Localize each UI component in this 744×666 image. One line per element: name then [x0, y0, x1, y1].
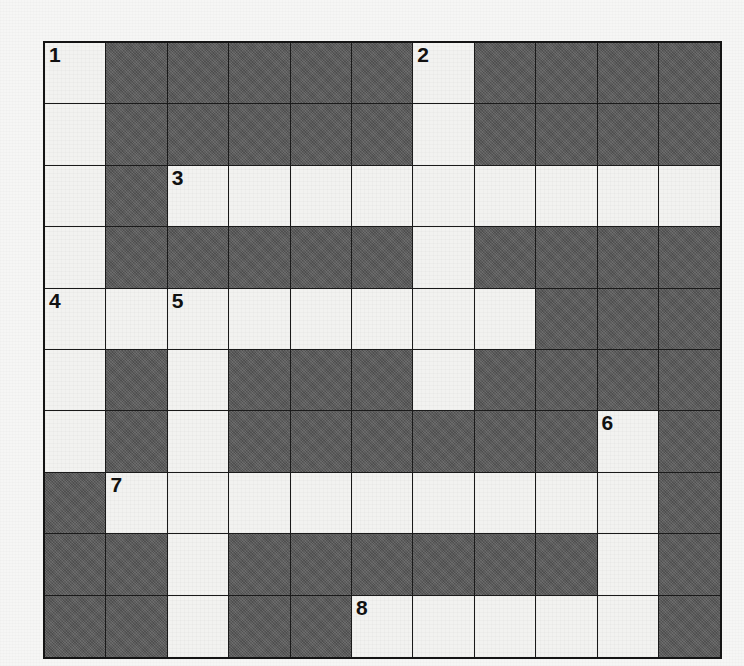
- grid-block-cell-6-10: [659, 411, 720, 472]
- grid-block-cell-3-7: [475, 227, 536, 288]
- grid-block-cell-3-2: [168, 227, 229, 288]
- grid-block-cell-6-4: [291, 411, 352, 472]
- grid-block-cell-6-5: [352, 411, 413, 472]
- grid-open-cell-7-1[interactable]: 7: [106, 473, 167, 534]
- grid-block-cell-0-8: [536, 43, 597, 104]
- grid-block-cell-8-7: [475, 534, 536, 595]
- grid-open-cell-4-1[interactable]: [106, 289, 167, 350]
- grid-block-cell-0-5: [352, 43, 413, 104]
- grid-open-cell-7-5[interactable]: [352, 473, 413, 534]
- grid-block-cell-6-7: [475, 411, 536, 472]
- crossword-grid[interactable]: 12345678: [43, 41, 722, 659]
- grid-open-cell-1-6[interactable]: [413, 104, 474, 165]
- clue-number-7: 7: [110, 473, 121, 497]
- grid-block-cell-7-10: [659, 473, 720, 534]
- grid-open-cell-7-2[interactable]: [168, 473, 229, 534]
- grid-open-cell-7-6[interactable]: [413, 473, 474, 534]
- grid-open-cell-3-6[interactable]: [413, 227, 474, 288]
- grid-block-cell-3-5: [352, 227, 413, 288]
- grid-open-cell-2-5[interactable]: [352, 166, 413, 227]
- grid-block-cell-1-8: [536, 104, 597, 165]
- grid-block-cell-0-9: [598, 43, 659, 104]
- grid-block-cell-5-8: [536, 350, 597, 411]
- grid-open-cell-9-2[interactable]: [168, 596, 229, 657]
- grid-block-cell-5-7: [475, 350, 536, 411]
- grid-open-cell-2-10[interactable]: [659, 166, 720, 227]
- grid-open-cell-6-9[interactable]: 6: [598, 411, 659, 472]
- grid-block-cell-8-10: [659, 534, 720, 595]
- grid-open-cell-7-7[interactable]: [475, 473, 536, 534]
- grid-open-cell-9-5[interactable]: 8: [352, 596, 413, 657]
- grid-block-cell-0-2: [168, 43, 229, 104]
- clue-number-6: 6: [602, 411, 613, 435]
- grid-block-cell-8-0: [45, 534, 106, 595]
- grid-block-cell-8-6: [413, 534, 474, 595]
- grid-block-cell-0-3: [229, 43, 290, 104]
- grid-open-cell-8-9[interactable]: [598, 534, 659, 595]
- grid-block-cell-5-4: [291, 350, 352, 411]
- grid-open-cell-8-2[interactable]: [168, 534, 229, 595]
- grid-block-cell-8-4: [291, 534, 352, 595]
- grid-block-cell-1-1: [106, 104, 167, 165]
- grid-block-cell-3-4: [291, 227, 352, 288]
- grid-block-cell-5-1: [106, 350, 167, 411]
- grid-open-cell-1-0[interactable]: [45, 104, 106, 165]
- grid-open-cell-7-9[interactable]: [598, 473, 659, 534]
- grid-open-cell-5-0[interactable]: [45, 350, 106, 411]
- grid-block-cell-3-8: [536, 227, 597, 288]
- grid-open-cell-2-7[interactable]: [475, 166, 536, 227]
- grid-open-cell-4-3[interactable]: [229, 289, 290, 350]
- grid-block-cell-3-3: [229, 227, 290, 288]
- grid-block-cell-9-10: [659, 596, 720, 657]
- grid-block-cell-1-3: [229, 104, 290, 165]
- grid-open-cell-2-3[interactable]: [229, 166, 290, 227]
- grid-open-cell-9-8[interactable]: [536, 596, 597, 657]
- grid-block-cell-7-0: [45, 473, 106, 534]
- grid-block-cell-5-3: [229, 350, 290, 411]
- grid-open-cell-7-3[interactable]: [229, 473, 290, 534]
- grid-block-cell-3-1: [106, 227, 167, 288]
- grid-open-cell-5-6[interactable]: [413, 350, 474, 411]
- grid-open-cell-4-2[interactable]: 5: [168, 289, 229, 350]
- grid-open-cell-2-9[interactable]: [598, 166, 659, 227]
- grid-open-cell-4-7[interactable]: [475, 289, 536, 350]
- grid-open-cell-2-6[interactable]: [413, 166, 474, 227]
- grid-block-cell-0-10: [659, 43, 720, 104]
- grid-open-cell-4-0[interactable]: 4: [45, 289, 106, 350]
- clue-number-5: 5: [172, 289, 183, 313]
- grid-block-cell-0-4: [291, 43, 352, 104]
- grid-open-cell-9-9[interactable]: [598, 596, 659, 657]
- grid-open-cell-6-0[interactable]: [45, 411, 106, 472]
- grid-open-cell-5-2[interactable]: [168, 350, 229, 411]
- grid-open-cell-7-8[interactable]: [536, 473, 597, 534]
- grid-block-cell-4-10: [659, 289, 720, 350]
- grid-open-cell-7-4[interactable]: [291, 473, 352, 534]
- grid-open-cell-2-4[interactable]: [291, 166, 352, 227]
- grid-block-cell-0-1: [106, 43, 167, 104]
- grid-block-cell-5-5: [352, 350, 413, 411]
- grid-open-cell-4-6[interactable]: [413, 289, 474, 350]
- grid-block-cell-4-9: [598, 289, 659, 350]
- grid-block-cell-3-9: [598, 227, 659, 288]
- grid-block-cell-8-5: [352, 534, 413, 595]
- grid-open-cell-0-0[interactable]: 1: [45, 43, 106, 104]
- grid-block-cell-5-9: [598, 350, 659, 411]
- grid-open-cell-3-0[interactable]: [45, 227, 106, 288]
- grid-open-cell-2-8[interactable]: [536, 166, 597, 227]
- grid-block-cell-6-1: [106, 411, 167, 472]
- grid-block-cell-0-7: [475, 43, 536, 104]
- grid-open-cell-9-6[interactable]: [413, 596, 474, 657]
- grid-open-cell-9-7[interactable]: [475, 596, 536, 657]
- grid-open-cell-2-2[interactable]: 3: [168, 166, 229, 227]
- clue-number-3: 3: [172, 166, 183, 190]
- grid-open-cell-4-4[interactable]: [291, 289, 352, 350]
- grid-open-cell-4-5[interactable]: [352, 289, 413, 350]
- grid-open-cell-6-2[interactable]: [168, 411, 229, 472]
- grid-open-cell-2-0[interactable]: [45, 166, 106, 227]
- grid-block-cell-6-8: [536, 411, 597, 472]
- grid-open-cell-0-6[interactable]: 2: [413, 43, 474, 104]
- grid-block-cell-3-10: [659, 227, 720, 288]
- grid-block-cell-8-3: [229, 534, 290, 595]
- clue-number-8: 8: [356, 596, 367, 620]
- grid-block-cell-8-8: [536, 534, 597, 595]
